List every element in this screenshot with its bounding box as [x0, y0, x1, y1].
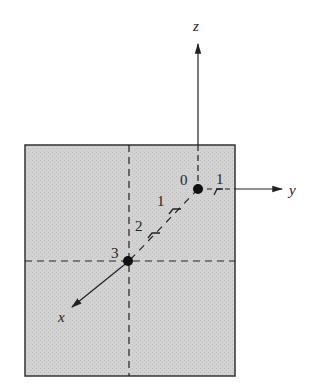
- origin-label: 0: [180, 172, 188, 188]
- axes-diagram: z y x 0 1 1 2 3: [0, 0, 316, 392]
- z-axis-label: z: [192, 18, 199, 34]
- x-axis-label: x: [57, 309, 65, 325]
- point-3: [123, 256, 133, 266]
- point-3-label: 3: [111, 245, 119, 261]
- x-tick-2-label: 2: [135, 218, 143, 234]
- y-axis-label: y: [287, 182, 296, 198]
- origin-point: [193, 184, 203, 194]
- y-tick-1-label: 1: [216, 171, 224, 187]
- x-tick-1-label: 1: [157, 193, 165, 209]
